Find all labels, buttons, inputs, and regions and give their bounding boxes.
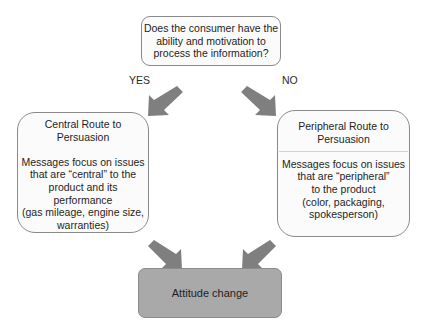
peripheral-route-box: Peripheral Route to Persuasion Messages … — [277, 110, 410, 237]
peripheral-title: Peripheral Route to — [278, 120, 409, 133]
question-line: ability and motivation to — [142, 35, 280, 48]
outcome-label: Attitude change — [172, 287, 248, 300]
question-line: Does the consumer have the — [142, 22, 280, 35]
arrow-peripheral-to-outcome — [242, 240, 276, 270]
central-route-box: Central Route to Persuasion Messages foc… — [17, 112, 149, 233]
no-branch-label: NO — [282, 74, 298, 86]
central-body-line: that are “central” to the — [18, 168, 148, 181]
central-body-line: performance — [18, 194, 148, 207]
central-body-line: (gas mileage, engine size, — [18, 206, 148, 219]
peripheral-body-line: to the product — [278, 183, 409, 196]
question-line: process the information? — [142, 47, 280, 60]
central-body-line: Messages focus on issues — [18, 156, 148, 169]
arrow-yes — [148, 86, 183, 116]
central-title: Central Route to — [18, 118, 148, 131]
attitude-change-box: Attitude change — [138, 268, 282, 318]
arrow-no — [241, 86, 276, 116]
peripheral-body-line: Messages focus on issues — [278, 158, 409, 171]
arrow-central-to-outcome — [148, 240, 182, 270]
yes-branch-label: YES — [129, 74, 150, 86]
peripheral-body-line: (color, packaging, — [278, 196, 409, 209]
peripheral-body-line: that are “peripheral” — [278, 170, 409, 183]
central-body-line: product and its — [18, 181, 148, 194]
central-body-line: warranties) — [18, 219, 148, 232]
decision-question-box: Does the consumer have the ability and m… — [141, 16, 281, 66]
divider — [279, 151, 408, 152]
central-title: Persuasion — [18, 131, 148, 144]
peripheral-body-line: spokesperson) — [278, 208, 409, 221]
peripheral-title: Persuasion — [278, 133, 409, 146]
